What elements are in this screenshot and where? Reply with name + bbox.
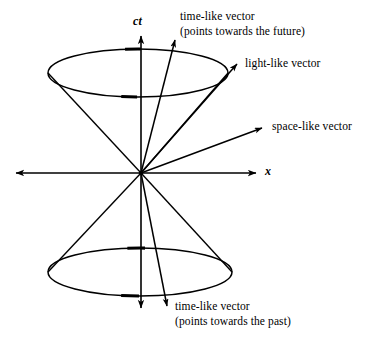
timelike-past-label-line1: time-like vector — [175, 299, 291, 314]
ct-axis-label: ct — [133, 14, 142, 29]
cone-group-upper — [48, 49, 228, 173]
future-cone-left-generator — [48, 73, 141, 173]
timelike-future-label: time-like vector (points towards the fut… — [180, 9, 305, 38]
timelike-past-vector — [141, 173, 167, 306]
spacelike-label: space-like vector — [272, 119, 352, 134]
past-cone-left-generator — [48, 173, 141, 272]
timelike-future-label-line1: time-like vector — [180, 9, 305, 24]
x-axis-label: x — [265, 164, 271, 179]
cone-group-lower — [48, 173, 232, 296]
timelike-past-label: time-like vector (points towards the pas… — [175, 299, 291, 328]
timelike-future-label-line2: (points towards the future) — [180, 24, 305, 39]
future-cone-ellipse — [48, 49, 228, 97]
origin-point — [139, 171, 143, 175]
timelike-past-label-line2: (points towards the past) — [175, 314, 291, 329]
spacelike-vector — [141, 128, 262, 173]
light-cone-svg — [0, 0, 386, 346]
lightlike-label: light-like vector — [245, 56, 320, 71]
past-cone-right-generator — [141, 173, 232, 272]
light-cone-figure: ct x time-like vector (points towards th… — [0, 0, 386, 346]
past-cone-ellipse — [48, 248, 232, 296]
